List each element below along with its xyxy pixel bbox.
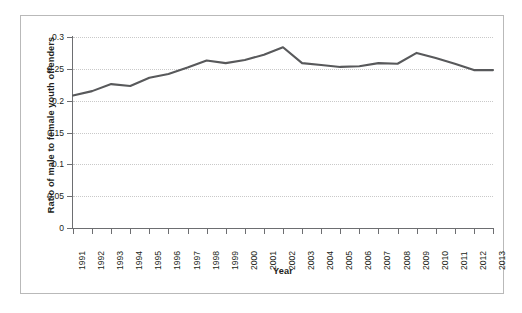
x-tick-label: 2012 bbox=[478, 238, 488, 270]
y-axis-line bbox=[72, 36, 73, 229]
gridline bbox=[73, 196, 493, 197]
x-tick-mark bbox=[130, 228, 131, 234]
plot-area bbox=[73, 37, 493, 228]
x-tick-label: 2002 bbox=[287, 238, 297, 270]
x-tick-label: 2004 bbox=[325, 238, 335, 270]
y-tick-label: 0.2 bbox=[24, 96, 64, 106]
y-tick-mark bbox=[67, 228, 72, 229]
x-tick-label: 2008 bbox=[402, 238, 412, 270]
y-tick-mark bbox=[67, 37, 72, 38]
gridline bbox=[73, 101, 493, 102]
x-tick-label: 1995 bbox=[153, 238, 163, 270]
x-tick-mark bbox=[226, 228, 227, 234]
x-tick-label: 2003 bbox=[306, 238, 316, 270]
x-tick-mark bbox=[207, 228, 208, 234]
x-tick-mark bbox=[474, 228, 475, 234]
x-tick-label: 1998 bbox=[211, 238, 221, 270]
x-tick-label: 1993 bbox=[115, 238, 125, 270]
y-tick-label: 0.05 bbox=[24, 191, 64, 201]
x-tick-label: 2005 bbox=[344, 238, 354, 270]
x-tick-label: 2007 bbox=[382, 238, 392, 270]
x-tick-label: 2001 bbox=[268, 238, 278, 270]
x-tick-mark bbox=[149, 228, 150, 234]
x-tick-mark bbox=[283, 228, 284, 234]
x-tick-mark bbox=[168, 228, 169, 234]
x-tick-label: 2009 bbox=[421, 238, 431, 270]
y-tick-mark bbox=[67, 196, 72, 197]
x-tick-label: 2000 bbox=[249, 238, 259, 270]
x-tick-mark bbox=[417, 228, 418, 234]
x-tick-mark bbox=[188, 228, 189, 234]
x-tick-label: 1992 bbox=[96, 238, 106, 270]
x-tick-label: 1997 bbox=[192, 238, 202, 270]
x-tick-mark bbox=[378, 228, 379, 234]
x-tick-label: 2006 bbox=[363, 238, 373, 270]
x-tick-mark bbox=[398, 228, 399, 234]
x-tick-mark bbox=[264, 228, 265, 234]
y-tick-mark bbox=[67, 164, 72, 165]
x-tick-mark bbox=[302, 228, 303, 234]
x-tick-mark bbox=[359, 228, 360, 234]
x-tick-mark bbox=[340, 228, 341, 234]
gridline bbox=[73, 133, 493, 134]
x-tick-mark bbox=[92, 228, 93, 234]
gridline bbox=[73, 37, 493, 38]
x-tick-label: 1996 bbox=[172, 238, 182, 270]
y-tick-label: 0.3 bbox=[24, 32, 64, 42]
x-tick-mark bbox=[111, 228, 112, 234]
x-tick-label: 2013 bbox=[497, 238, 507, 270]
x-tick-mark bbox=[321, 228, 322, 234]
x-tick-label: 2011 bbox=[459, 238, 469, 270]
y-tick-label: 0.25 bbox=[24, 64, 64, 74]
chart-figure: Ratio of male to female youth offenders … bbox=[0, 0, 522, 313]
y-tick-label: 0 bbox=[24, 223, 64, 233]
y-tick-mark bbox=[67, 69, 72, 70]
x-tick-mark bbox=[73, 228, 74, 234]
y-tick-label: 0.15 bbox=[24, 128, 64, 138]
x-tick-mark bbox=[436, 228, 437, 234]
x-tick-label: 1994 bbox=[134, 238, 144, 270]
x-tick-mark bbox=[455, 228, 456, 234]
y-tick-mark bbox=[67, 101, 72, 102]
x-tick-label: 2010 bbox=[440, 238, 450, 270]
y-tick-mark bbox=[67, 133, 72, 134]
x-tick-label: 1999 bbox=[230, 238, 240, 270]
x-tick-mark bbox=[493, 228, 494, 234]
x-tick-mark bbox=[245, 228, 246, 234]
gridline bbox=[73, 69, 493, 70]
gridline bbox=[73, 164, 493, 165]
x-tick-label: 1991 bbox=[77, 238, 87, 270]
y-tick-label: 0.1 bbox=[24, 159, 64, 169]
